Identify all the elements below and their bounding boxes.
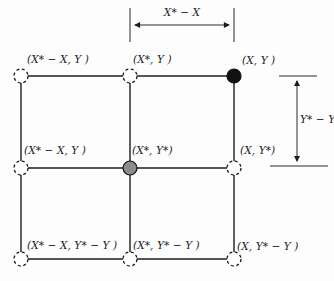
node-middle-center	[123, 161, 137, 175]
interpolation-grid-diagram: X* − X Y* − Y (X* − X, Y ) (X*, Y ) (X, …	[0, 0, 334, 281]
node-label-top-right: (X, Y )	[242, 54, 275, 66]
node-top-left	[14, 69, 28, 83]
node-label-middle-right: (X, Y*)	[240, 144, 275, 156]
node-label-middle-left: (X* − X, Y )	[24, 144, 86, 156]
node-label-bottom-left: (X* − X, Y* − Y )	[27, 239, 117, 251]
node-label-top-center: (X*, Y )	[133, 53, 172, 65]
node-label-bottom-center: (X*, Y* − Y )	[133, 239, 200, 251]
node-bottom-center	[123, 252, 137, 266]
node-label-top-left: (X* − X, Y )	[27, 53, 89, 65]
node-bottom-right	[227, 252, 241, 266]
node-label-middle-center: (X*, Y*)	[132, 144, 173, 156]
node-label-bottom-right: (X, Y* − Y )	[237, 240, 298, 252]
node-middle-right	[227, 161, 241, 175]
node-top-right	[227, 69, 241, 83]
node-top-center	[123, 69, 137, 83]
node-middle-left	[14, 161, 28, 175]
node-bottom-left	[14, 252, 28, 266]
dimension-label-horizontal: X* − X	[148, 6, 216, 18]
dimension-label-vertical: Y* − Y	[300, 113, 334, 125]
